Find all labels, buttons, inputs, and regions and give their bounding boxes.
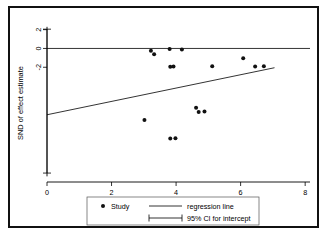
study-point [152, 52, 156, 56]
study-point [194, 106, 198, 110]
funnel-plot: 02468Precision20-2SND of effect estimate… [10, 8, 321, 230]
y-axis-title: SND of effect estimate [16, 66, 25, 140]
study-point [197, 110, 201, 114]
study-point [168, 137, 172, 141]
x-tick-label-2: 2 [110, 188, 114, 197]
x-tick-label-4: 4 [174, 188, 178, 197]
study-point [241, 56, 245, 60]
study-point [149, 49, 153, 53]
y-tick-label-2: 2 [34, 28, 43, 32]
study-point [171, 65, 175, 69]
chart-frame: 02468Precision20-2SND of effect estimate… [8, 6, 319, 228]
study-point [180, 47, 184, 51]
study-point [173, 136, 177, 140]
y-tick-label-0: 0 [34, 46, 43, 50]
legend-label-regression: regression line [187, 202, 234, 211]
legend-study-marker [101, 204, 105, 208]
study-point [210, 64, 214, 68]
regression-line [47, 68, 275, 115]
study-point [262, 64, 266, 68]
study-point [168, 47, 172, 51]
legend-label-ci: 95% CI for intercept [187, 214, 251, 223]
study-point [142, 118, 146, 122]
legend-label-study: Study [111, 202, 130, 211]
x-tick-label-6: 6 [239, 188, 243, 197]
plot-content: 02468Precision20-2SND of effect estimate… [16, 27, 310, 225]
y-tick-label--2: -2 [34, 64, 43, 70]
study-point [253, 65, 257, 69]
x-tick-label-0: 0 [45, 188, 49, 197]
study-point [202, 109, 206, 113]
x-tick-label-8: 8 [303, 188, 307, 197]
